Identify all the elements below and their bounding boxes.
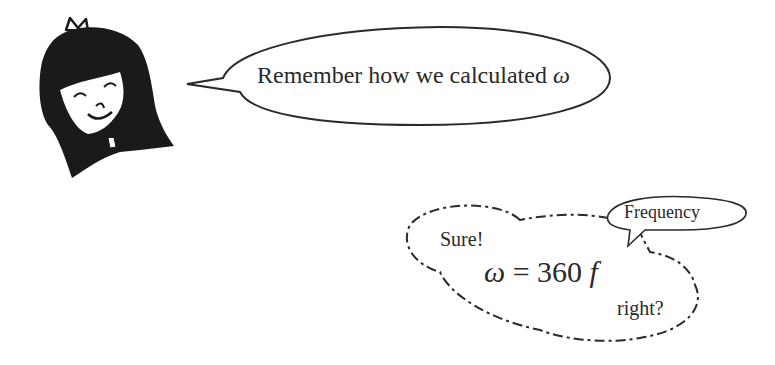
formula-lhs: ω (484, 255, 505, 288)
greeting-text: Sure! (440, 228, 483, 251)
omega-symbol: ω (553, 62, 570, 88)
formula-equals: = (513, 255, 530, 288)
formula-number: 360 (537, 255, 582, 288)
question-text: right? (617, 297, 664, 320)
formula: ω = 360 f (484, 255, 598, 289)
speech-bubble-text: Remember how we calculated ω (257, 62, 570, 89)
girl-avatar (40, 18, 174, 178)
formula-variable: f (590, 255, 598, 288)
speech-text: Remember how we calculated (257, 62, 547, 88)
frequency-label: Frequency (624, 202, 700, 223)
